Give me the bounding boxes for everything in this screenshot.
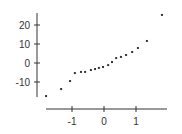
- data-point: [111, 61, 113, 63]
- data-point: [115, 57, 117, 59]
- qq-plot: -1001020 -101: [0, 0, 182, 134]
- y-axis: -1001020: [16, 13, 40, 97]
- data-point: [94, 68, 96, 70]
- x-tick-label: -1: [68, 116, 77, 127]
- data-point: [90, 69, 92, 71]
- data-point: [80, 71, 82, 73]
- data-point: [74, 72, 76, 74]
- x-tick-label: 1: [133, 116, 139, 127]
- x-axis: -101: [46, 106, 167, 127]
- data-point: [125, 54, 127, 56]
- data-point: [84, 71, 86, 73]
- data-point: [137, 47, 139, 49]
- x-tick-label: 0: [101, 116, 107, 127]
- data-point: [45, 95, 47, 97]
- y-tick-label: 0: [24, 58, 30, 69]
- data-point: [98, 67, 100, 69]
- y-tick-label: -10: [16, 77, 31, 88]
- data-point: [69, 80, 71, 82]
- y-tick-label: 10: [19, 39, 31, 50]
- data-point: [161, 14, 163, 16]
- data-point: [60, 88, 62, 90]
- data-point: [131, 51, 133, 53]
- y-tick-label: 20: [19, 20, 31, 31]
- data-point: [107, 64, 109, 66]
- data-point: [102, 66, 104, 68]
- data-point: [146, 40, 148, 42]
- data-points: [45, 14, 163, 97]
- data-point: [120, 56, 122, 58]
